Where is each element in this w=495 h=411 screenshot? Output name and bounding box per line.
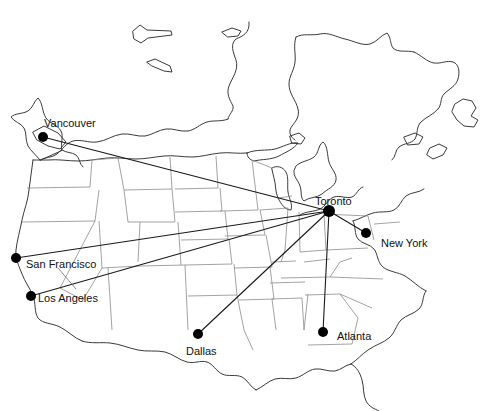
border-ok-tx <box>188 295 237 296</box>
florida-peninsula <box>351 364 379 411</box>
city-label-vancouver: Vancouver <box>44 118 96 129</box>
lake-huron <box>294 142 336 201</box>
border-wi-mi <box>252 160 272 168</box>
route-lines-group <box>16 137 366 334</box>
border-wa-or <box>27 187 90 188</box>
city-marker-dallas[interactable] <box>193 329 203 339</box>
border-id-nv <box>95 190 99 221</box>
hudson-bay-east <box>296 33 414 52</box>
city-label-atlanta: Atlanta <box>337 331 371 342</box>
hudson-bay-west <box>289 37 298 140</box>
border-sd-mn <box>220 188 222 211</box>
border-il-in <box>281 208 288 262</box>
arctic-island-upper <box>133 25 172 43</box>
border-tx-la <box>237 295 253 350</box>
border-sd-ne <box>175 211 222 212</box>
lake-michigan <box>272 167 292 210</box>
border-ms-al <box>272 298 304 330</box>
city-marker-atlanta[interactable] <box>318 327 328 337</box>
border-mt-nd <box>170 157 172 189</box>
border-nd-sd <box>175 188 218 189</box>
cropped-caption-strip <box>22 401 252 410</box>
border-az-nm <box>108 268 112 330</box>
maritimes-inner <box>404 133 423 145</box>
border-nd-mn <box>216 156 218 188</box>
border-ms-tn <box>270 282 305 283</box>
arctic-island-lower <box>147 59 172 72</box>
border-nm-tx <box>185 265 188 330</box>
border-al-ga <box>304 294 308 330</box>
route-toronto-vancouver <box>43 137 329 211</box>
usa-outline-group <box>16 142 426 411</box>
map-canvas <box>0 0 495 411</box>
border-mn-ia <box>220 210 258 211</box>
bc-inlet <box>62 150 83 167</box>
border-mo-ar <box>234 267 272 268</box>
border-mt-wy <box>124 189 172 190</box>
border-ne-ia <box>225 211 228 239</box>
border-ca-nv <box>60 221 95 288</box>
newfoundland <box>452 99 478 127</box>
border-nv-ut <box>99 221 102 268</box>
alaska-panhandle <box>11 98 62 160</box>
city-marker-new-york[interactable] <box>361 228 371 238</box>
city-marker-vancouver[interactable] <box>38 132 48 142</box>
border-ks-ok <box>185 264 232 265</box>
great-slave-lake <box>222 28 241 37</box>
border-or-ca <box>22 221 95 222</box>
border-ok-ar <box>234 264 237 295</box>
border-new-england-n <box>374 222 400 224</box>
route-toronto-new-york <box>329 211 366 233</box>
usa-mexico-border <box>82 341 256 390</box>
border-in-oh <box>299 212 300 252</box>
city-label-dallas: Dallas <box>186 346 217 357</box>
gulf-coast <box>256 364 351 390</box>
canada-coastline-group <box>11 22 478 167</box>
border-ks-mo <box>229 239 232 264</box>
border-oh-pa <box>324 214 326 250</box>
border-co-nm <box>140 265 185 266</box>
route-map-figure: Vancouver San Francisco Los Angeles Dall… <box>0 0 495 411</box>
border-la-ms <box>272 299 276 330</box>
border-oh-wv <box>300 250 326 252</box>
city-markers-group <box>11 132 371 339</box>
state-borders-group <box>22 156 400 350</box>
border-ga-fl <box>308 344 352 345</box>
city-label-san-francisco: San Francisco <box>26 259 96 270</box>
border-va-wv <box>330 258 352 277</box>
nova-scotia <box>427 144 447 159</box>
city-marker-san-francisco[interactable] <box>11 253 21 263</box>
lake-superior <box>247 143 298 161</box>
border-co-ks <box>178 222 181 265</box>
border-ky-tn <box>281 277 330 278</box>
city-marker-los-angeles[interactable] <box>26 291 36 301</box>
route-toronto-atlanta <box>323 211 329 332</box>
border-pa-md <box>326 248 368 250</box>
border-ut-co <box>138 222 140 262</box>
border-wy-west <box>124 190 128 222</box>
border-ia-il <box>260 210 265 235</box>
border-id-mt <box>92 158 124 190</box>
city-label-toronto: Toronto <box>315 196 352 207</box>
lake-winnipeg <box>290 133 305 144</box>
route-toronto-san-francisco <box>16 211 329 258</box>
atlantic-coast <box>351 291 426 364</box>
city-label-new-york: New York <box>381 238 427 249</box>
border-mn-wi <box>252 160 258 210</box>
gulf-st-lawrence <box>392 109 438 160</box>
border-wi-il <box>260 208 288 210</box>
border-wy-sd <box>172 189 175 222</box>
border-ne-ks <box>181 239 228 240</box>
city-label-los-angeles: Los Angeles <box>38 293 98 304</box>
border-nc-va <box>330 277 383 279</box>
usa-canada-border-west <box>33 153 247 161</box>
border-id-west <box>90 160 92 187</box>
border-mo-il <box>266 235 272 267</box>
border-tn-ga <box>305 294 340 295</box>
border-ar-la <box>239 299 274 300</box>
labrador-coast <box>414 52 459 109</box>
